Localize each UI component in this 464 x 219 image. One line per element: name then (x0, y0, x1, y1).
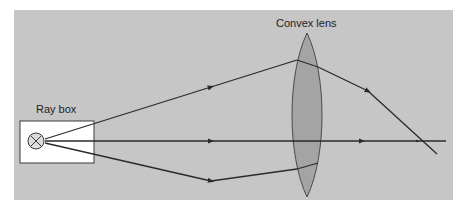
background-panel (14, 10, 453, 200)
convex-lens-label: Convex lens (276, 17, 337, 29)
lens-diagram: Ray box Convex lens (0, 0, 464, 219)
focal-point (416, 140, 418, 142)
diagram-stage: Ray box Convex lens (0, 0, 464, 219)
ray-box-label: Ray box (36, 103, 77, 115)
bulb-icon (28, 133, 44, 149)
